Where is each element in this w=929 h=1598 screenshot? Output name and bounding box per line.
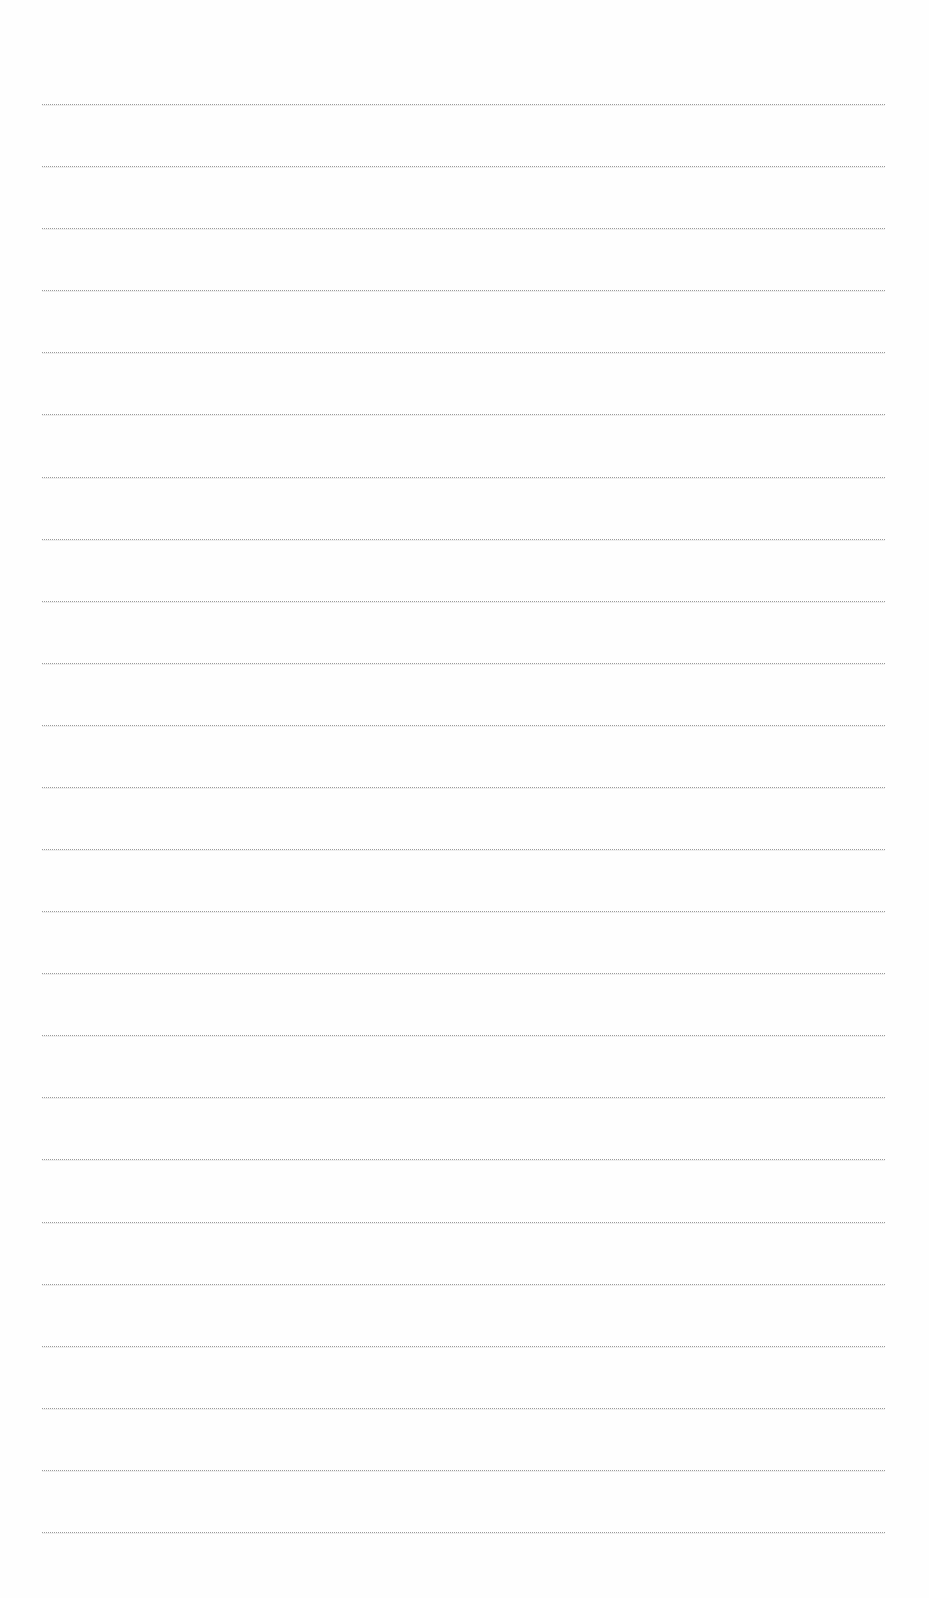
ruled-line	[42, 601, 885, 602]
ruled-line	[42, 1532, 885, 1533]
ruled-line	[42, 1222, 885, 1223]
lined-paper-page	[0, 0, 929, 1598]
ruled-line	[42, 228, 885, 229]
ruled-line	[42, 1035, 885, 1036]
ruled-line	[42, 725, 885, 726]
ruled-line	[42, 477, 885, 478]
ruled-line	[42, 1284, 885, 1285]
ruled-line	[42, 414, 885, 415]
ruled-line	[42, 849, 885, 850]
ruled-line	[42, 166, 885, 167]
ruled-line	[42, 539, 885, 540]
ruled-line	[42, 1346, 885, 1347]
ruled-line	[42, 911, 885, 912]
ruled-line	[42, 787, 885, 788]
ruled-line	[42, 1097, 885, 1098]
ruled-line	[42, 1408, 885, 1409]
ruled-line	[42, 1159, 885, 1160]
ruled-line	[42, 290, 885, 291]
ruled-line	[42, 973, 885, 974]
ruled-line	[42, 1470, 885, 1471]
ruled-line	[42, 352, 885, 353]
ruled-line	[42, 104, 885, 105]
ruled-line	[42, 663, 885, 664]
